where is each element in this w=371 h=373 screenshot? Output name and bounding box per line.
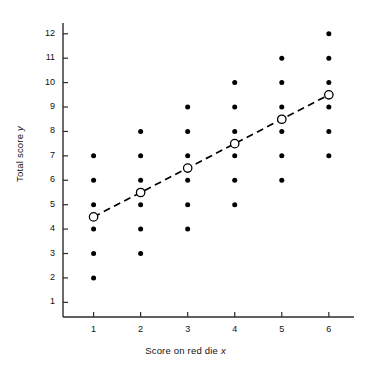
x-tick-label: 1 (85, 324, 103, 334)
y-tick-label: 5 (37, 199, 55, 209)
data-point-dot (138, 202, 143, 207)
data-point-dot (91, 227, 96, 232)
data-point-dot (232, 153, 237, 158)
data-point-dot (326, 153, 331, 158)
x-tick-label: 3 (179, 324, 197, 334)
y-axis-title-container: Total score y (9, 94, 27, 214)
y-axis-title: Total score y (14, 126, 25, 182)
y-tick-label: 12 (37, 28, 55, 38)
trend-line-dashed (94, 95, 329, 217)
data-point-dot (326, 31, 331, 36)
data-point-dot (138, 153, 143, 158)
mean-point-circle (183, 164, 191, 172)
mean-point-circle (325, 91, 333, 99)
data-point-dot (326, 56, 331, 61)
x-axis-title-text: Score on red die (145, 345, 218, 356)
y-tick-label: 6 (37, 174, 55, 184)
data-point-dot (326, 105, 331, 110)
data-point-dot (279, 80, 284, 85)
x-tick-label: 2 (132, 324, 150, 334)
x-tick-label: 4 (226, 324, 244, 334)
data-point-dot (232, 202, 237, 207)
x-tick-label: 5 (273, 324, 291, 334)
data-point-dot (326, 129, 331, 134)
data-point-dot (91, 153, 96, 158)
data-point-dot (185, 153, 190, 158)
mean-point-circle (278, 115, 286, 123)
y-tick-label: 10 (37, 77, 55, 87)
mean-point-circle (89, 213, 97, 221)
y-tick-label: 2 (37, 272, 55, 282)
data-point-dot (279, 56, 284, 61)
data-point-dot (138, 178, 143, 183)
mean-point-circle (231, 139, 239, 147)
data-point-dot (185, 129, 190, 134)
data-point-dot (232, 129, 237, 134)
x-tick-label: 6 (320, 324, 338, 334)
data-point-dot (185, 105, 190, 110)
y-tick-label: 11 (37, 52, 55, 62)
plot-canvas (0, 0, 371, 373)
data-point-dot (138, 251, 143, 256)
data-point-dot (232, 178, 237, 183)
data-point-dot (279, 178, 284, 183)
data-point-dot (185, 227, 190, 232)
y-tick-label: 3 (37, 248, 55, 258)
data-point-dot (232, 105, 237, 110)
scatter-plot-figure: Total score y Score on red die x 1234567… (0, 0, 371, 373)
y-axis-variable: y (14, 126, 25, 131)
data-point-dot (91, 178, 96, 183)
data-point-dot (279, 105, 284, 110)
y-tick-label: 1 (37, 296, 55, 306)
data-point-dot (326, 80, 331, 85)
y-tick-label: 4 (37, 223, 55, 233)
data-point-dot (232, 80, 237, 85)
y-tick-label: 9 (37, 101, 55, 111)
data-point-dot (279, 129, 284, 134)
y-tick-label: 7 (37, 150, 55, 160)
y-tick-label: 8 (37, 125, 55, 135)
data-point-dot (279, 153, 284, 158)
x-axis-title: Score on red die x (0, 345, 371, 356)
data-point-dot (91, 202, 96, 207)
data-point-dot (91, 251, 96, 256)
data-point-dot (185, 202, 190, 207)
y-axis-title-text: Total score (14, 134, 25, 182)
data-point-dot (138, 227, 143, 232)
data-point-dot (138, 129, 143, 134)
data-point-dot (91, 275, 96, 280)
mean-point-circle (136, 188, 144, 196)
data-point-dot (185, 178, 190, 183)
x-axis-variable: x (221, 345, 226, 356)
